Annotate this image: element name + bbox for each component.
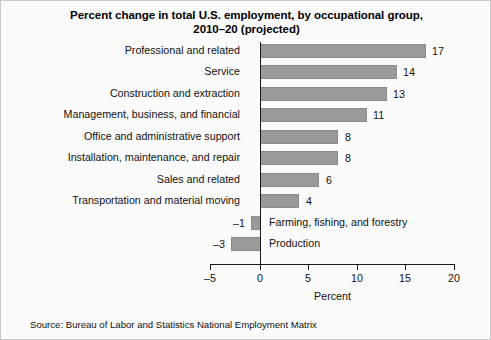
x-axis-title: Percent [210, 290, 455, 302]
bar-row: Farming, fishing, and forestry –1 [1, 213, 491, 233]
x-tick-label: 10 [337, 272, 377, 284]
bar [260, 44, 426, 58]
x-axis-line [210, 264, 455, 265]
category-label: Office and administrative support [84, 130, 240, 143]
value-label: 14 [403, 65, 415, 79]
bar-row: Office and administrative support 8 [1, 127, 491, 147]
chart-title-line-1: Percent change in total U.S. employment,… [1, 8, 491, 22]
bar-row: Construction and extraction 13 [1, 84, 491, 104]
value-label: 8 [345, 151, 351, 165]
chart-title-line-2: 2010–20 (projected) [1, 22, 491, 36]
bar [260, 65, 397, 79]
category-label: Sales and related [157, 173, 240, 186]
value-label: 13 [393, 87, 405, 101]
value-label: –1 [213, 216, 245, 230]
value-label: –3 [193, 237, 225, 251]
bar [260, 108, 367, 122]
bar [231, 237, 261, 251]
zero-axis-line [260, 42, 261, 264]
x-tick [210, 264, 211, 270]
x-tick [405, 264, 406, 270]
bar-row: Sales and related 6 [1, 170, 491, 190]
x-tick-label: 0 [240, 272, 280, 284]
value-label: 8 [345, 130, 351, 144]
bar-row: Service 14 [1, 62, 491, 82]
chart-figure: Percent change in total U.S. employment,… [0, 0, 491, 340]
value-label: 6 [326, 173, 332, 187]
x-tick [357, 264, 358, 270]
category-label: Construction and extraction [110, 87, 240, 100]
value-label: 17 [432, 44, 444, 58]
value-label: 4 [306, 194, 312, 208]
bar [260, 87, 387, 101]
x-tick-label: 5 [288, 272, 328, 284]
bar [260, 130, 338, 144]
x-tick [454, 264, 455, 270]
x-tick-label: 20 [434, 272, 474, 284]
bar [260, 151, 338, 165]
category-label: Farming, fishing, and forestry [269, 216, 407, 229]
value-label: 11 [373, 108, 384, 122]
bar-row: Transportation and material moving 4 [1, 191, 491, 211]
bar-row: Installation, maintenance, and repair 8 [1, 148, 491, 168]
bar [260, 194, 299, 208]
x-tick [308, 264, 309, 270]
bar [260, 173, 319, 187]
plot-area: Professional and related 17 Service 14 C… [1, 41, 491, 266]
category-label: Management, business, and financial [64, 108, 240, 121]
x-tick [260, 264, 261, 270]
bar-row: Management, business, and financial 11 [1, 105, 491, 125]
category-label: Transportation and material moving [72, 194, 240, 207]
chart-title: Percent change in total U.S. employment,… [1, 8, 491, 36]
category-label: Service [204, 65, 240, 78]
category-label: Installation, maintenance, and repair [68, 151, 240, 164]
x-tick-label: 15 [385, 272, 425, 284]
bar-row: Professional and related 17 [1, 41, 491, 61]
category-label: Professional and related [125, 44, 240, 57]
source-note: Source: Bureau of Labor and Statistics N… [30, 319, 317, 330]
x-tick-label: –5 [190, 272, 230, 284]
bar-row: Production –3 [1, 234, 491, 254]
category-label: Production [269, 237, 320, 250]
